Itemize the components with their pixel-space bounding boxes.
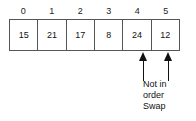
array-index-label-4: 4 [123, 4, 152, 18]
array-index-label-0: 0 [9, 4, 38, 18]
array-cell-1: 21 [38, 20, 66, 50]
up-arrow-icon-index-5 [164, 52, 173, 81]
array-cell-0: 15 [10, 20, 38, 50]
array-index-label-3: 3 [95, 4, 124, 18]
caption-line-1: Not in [143, 79, 195, 90]
array-index-label-1: 1 [38, 4, 67, 18]
array-cell-5: 12 [152, 20, 179, 50]
array-cell-4: 24 [123, 20, 151, 50]
caption-line-3: Swap [143, 101, 195, 112]
arrow-stem [143, 60, 144, 81]
array-index-label-5: 5 [152, 4, 181, 18]
up-arrow-icon-index-4 [139, 52, 148, 81]
array-container: 15 21 17 8 24 12 [9, 19, 180, 51]
annotation-caption: Not in order Swap [143, 79, 195, 112]
array-index-label-2: 2 [66, 4, 95, 18]
array-swap-diagram: 0 1 2 3 4 5 15 21 17 8 24 12 Not in orde… [0, 0, 196, 121]
array-cell-3: 8 [95, 20, 123, 50]
array-index-labels: 0 1 2 3 4 5 [9, 4, 180, 18]
caption-line-2: order [143, 90, 195, 101]
arrow-stem [168, 60, 169, 81]
array-cell-2: 17 [67, 20, 95, 50]
